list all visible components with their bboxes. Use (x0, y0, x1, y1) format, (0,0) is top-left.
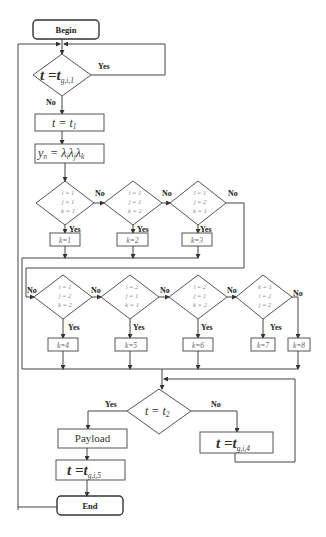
yes-label: Yes (270, 323, 282, 332)
no-label: No (228, 189, 238, 198)
svg-text:Payload: Payload (75, 432, 111, 444)
no-label: No (46, 98, 56, 107)
svg-text:i = 2: i = 2 (259, 292, 272, 299)
no-label: No (91, 286, 101, 295)
decision-start-time: t =tg,i,1 (33, 54, 91, 96)
payload-step: Payload (58, 429, 127, 448)
svg-text:k = 2: k = 2 (193, 301, 208, 308)
svg-text:i = 1: i = 1 (129, 189, 142, 196)
svg-text:j = 2: j = 2 (58, 292, 72, 299)
decision-row1-1: i = 1 j = 1 k = 1 (36, 181, 94, 225)
yes-label: Yes (98, 62, 110, 71)
no-label: No (95, 189, 105, 198)
end-terminal: End (57, 496, 123, 515)
svg-text:k = 2: k = 2 (58, 301, 73, 308)
svg-text:k=8: k=8 (293, 341, 305, 350)
result-k8: k=8 (288, 338, 310, 351)
no-label: No (211, 400, 221, 409)
svg-text:k = 2: k = 2 (128, 207, 143, 214)
svg-text:i = 1: i = 1 (59, 283, 72, 290)
svg-text:j = 1: j = 1 (193, 292, 207, 299)
no-label: No (162, 189, 172, 198)
svg-text:k=7: k=7 (257, 341, 269, 350)
svg-text:k = 1: k = 1 (193, 207, 207, 214)
result-k2: k=2 (117, 233, 148, 246)
yes-label: Yes (201, 323, 213, 332)
decision-row2-3: i = 2 j = 1 k = 2 (169, 275, 227, 319)
step-set-t5: t =tg,i,5 (56, 460, 125, 480)
yes-label: Yes (105, 400, 117, 409)
svg-text:i = 1: i = 1 (62, 189, 75, 196)
svg-text:k=4: k=4 (57, 341, 69, 350)
no-label: No (227, 286, 237, 295)
begin-label: Begin (56, 25, 77, 35)
svg-text:i = 1: i = 1 (194, 189, 207, 196)
end-label: End (82, 501, 97, 511)
svg-text:j = 1: j = 1 (61, 198, 75, 205)
decision-row2-1: i = 1 j = 2 k = 2 (34, 275, 92, 319)
svg-text:k = 1: k = 1 (61, 207, 75, 214)
svg-text:k = 1: k = 1 (258, 283, 272, 290)
result-k4: k=4 (48, 338, 78, 351)
svg-text:j = 2: j = 2 (258, 301, 272, 308)
result-k5: k=5 (115, 338, 147, 351)
decision-row2-2: i = 2 j = 1 k = 1 (101, 275, 159, 319)
decision-row1-2: i = 1 j = 1 k = 2 (104, 181, 162, 225)
result-k3: k=3 (182, 233, 212, 246)
result-k1: k=1 (50, 233, 80, 246)
yes-label: Yes (133, 323, 145, 332)
svg-text:k = 1: k = 1 (125, 301, 139, 308)
yes-label: Yes (68, 323, 80, 332)
no-label: No (27, 286, 37, 295)
result-k7: k=7 (251, 338, 275, 351)
no-label: No (160, 286, 170, 295)
svg-text:j = 1: j = 1 (125, 292, 139, 299)
decision-row1-3: i = 1 j = 2 k = 1 (170, 181, 226, 225)
svg-text:k=3: k=3 (191, 236, 203, 245)
svg-text:i = 2: i = 2 (194, 283, 207, 290)
step-compute-yn: yn = λiλjλk (35, 144, 104, 163)
svg-text:j = 1: j = 1 (128, 198, 142, 205)
step-set-t1: t = t1 (35, 114, 104, 131)
row1-collector (22, 258, 198, 369)
svg-text:k=6: k=6 (192, 341, 204, 350)
svg-text:k=5: k=5 (125, 341, 137, 350)
svg-text:k=2: k=2 (126, 236, 138, 245)
svg-text:j = 2: j = 2 (193, 198, 207, 205)
svg-text:k=1: k=1 (59, 236, 71, 245)
result-k6: k=6 (183, 338, 213, 351)
decision-t2: t = t2 (127, 389, 191, 434)
step-set-t4: t =tg,i,4 (200, 432, 273, 453)
flowchart-canvas: Begin t =tg,i,1 Yes No t = t1 yn = λiλjλ… (0, 0, 326, 537)
begin-terminal: Begin (33, 20, 99, 39)
decision-row2-4: k = 1 i = 2 j = 2 (236, 275, 292, 319)
svg-text:i = 2: i = 2 (126, 283, 139, 290)
